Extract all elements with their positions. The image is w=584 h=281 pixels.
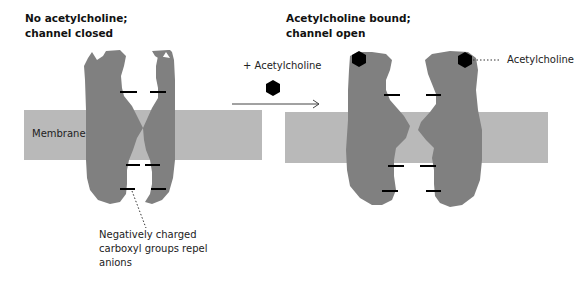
right-arrow-icon [232,100,319,108]
closed-panel-title: No acetylcholine; channel closed [25,11,127,41]
annotation-line3: anions [99,256,207,270]
channel-diagram [0,0,584,281]
closed-channel-right-subunit [143,50,175,204]
annotation-line2: carboxyl groups repel [99,242,207,256]
acetylcholine-hexagon-icon [266,80,280,96]
carboxyl-annotation: Negatively charged carboxyl groups repel… [99,228,207,270]
open-panel-title: Acetylcholine bound; channel open [286,11,411,41]
annotation-leader-closed [132,191,146,228]
open-title-line2: channel open [286,26,411,41]
closed-channel-left-subunit [84,50,143,204]
open-channel-right-subunit [418,51,482,207]
membrane-right [285,112,548,163]
transition-label: + Acetylcholine [243,59,322,73]
annotation-line1: Negatively charged [99,228,207,242]
ligand-label: Acetylcholine [507,53,574,67]
membrane-label: Membrane [32,127,86,141]
closed-title-line1: No acetylcholine; [25,11,127,26]
closed-title-line2: channel closed [25,26,127,41]
open-title-line1: Acetylcholine bound; [286,11,411,26]
open-channel-left-subunit [346,52,410,205]
